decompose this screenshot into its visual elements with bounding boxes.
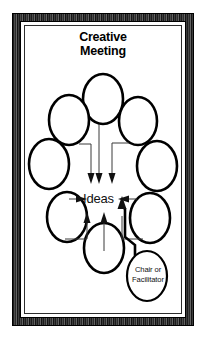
diagram-root: Creative Meeting bbox=[0, 0, 206, 341]
participant-left[interactable] bbox=[29, 139, 69, 189]
participant-top-left[interactable] bbox=[49, 95, 89, 145]
arrow-from-top-right bbox=[109, 173, 116, 184]
connector-top-right bbox=[112, 143, 129, 175]
center-label-ideas: Ideas bbox=[83, 191, 114, 206]
connector-top-left bbox=[79, 144, 91, 175]
facilitator-label: Chair or Facilitator bbox=[120, 265, 176, 284]
participant-bottom-right[interactable] bbox=[130, 193, 170, 243]
diagram-canvas: Creative Meeting bbox=[25, 26, 181, 313]
arrow-from-top-left bbox=[88, 173, 95, 184]
participant-top-right[interactable] bbox=[119, 97, 157, 145]
arrow-from-top bbox=[96, 173, 103, 184]
arrow-from-bottom bbox=[101, 212, 108, 223]
participant-right[interactable] bbox=[137, 141, 177, 191]
